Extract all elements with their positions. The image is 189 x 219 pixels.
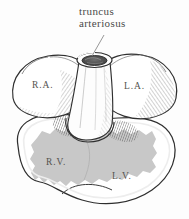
callout-line-1: truncus <box>79 6 126 18</box>
label-right-atrium: R.A. <box>32 80 54 90</box>
heart-diagram-figure: truncus arteriosus R.A. L.A. R.V. L.V. <box>0 0 189 219</box>
callout-line-2: arteriosus <box>79 18 126 30</box>
label-left-ventricle: L.V. <box>112 171 132 181</box>
truncus-arteriosus-callout: truncus arteriosus <box>79 6 126 29</box>
label-left-atrium: L.A. <box>124 81 145 91</box>
label-right-ventricle: R.V. <box>46 157 66 167</box>
heart-anatomy-illustration <box>0 0 189 219</box>
